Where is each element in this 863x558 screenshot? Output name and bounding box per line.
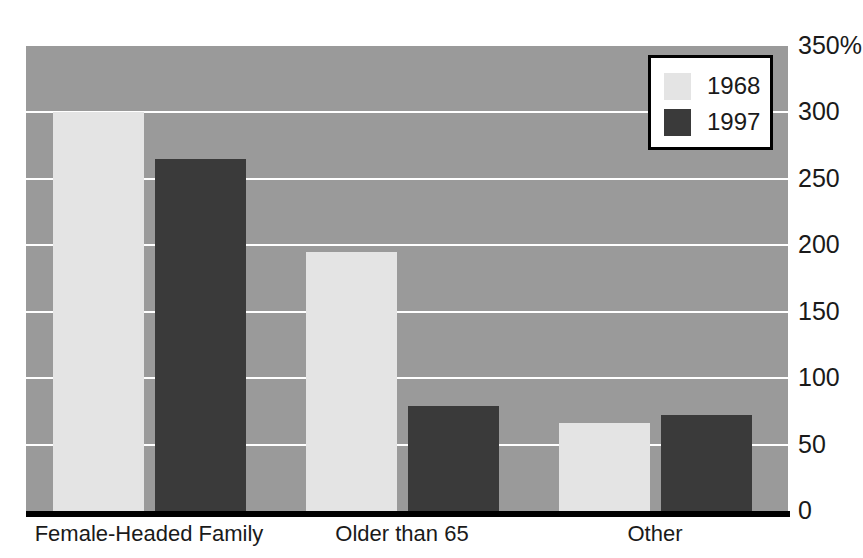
bar-1997-older-than-65 [408, 406, 499, 511]
y-tick-150: 150 [798, 299, 840, 324]
x-label-other: Other [455, 523, 855, 545]
legend-swatch-1968 [664, 73, 691, 100]
bar-1968-older-than-65 [306, 252, 397, 511]
y-tick-250: 250 [798, 166, 840, 191]
chart-legend: 1968 1997 [648, 55, 773, 150]
legend-entry-1997: 1997 [651, 104, 770, 140]
y-tick-0: 0 [798, 498, 812, 523]
bar-1997-female-headed-family [155, 159, 246, 511]
y-tick-350: 350% [798, 33, 862, 58]
y-tick-200: 200 [798, 232, 840, 257]
bar-1997-other [661, 415, 752, 511]
bar-1968-female-headed-family [53, 112, 144, 511]
legend-label-1968: 1968 [707, 74, 760, 98]
y-tick-100: 100 [798, 365, 840, 390]
legend-label-1997: 1997 [707, 110, 760, 134]
legend-swatch-1997 [664, 109, 691, 136]
y-tick-300: 300 [798, 99, 840, 124]
legend-entry-1968: 1968 [651, 68, 770, 104]
bar-chart: 050100150200250300350% Female-Headed Fam… [0, 0, 863, 558]
y-tick-50: 50 [798, 432, 826, 457]
bar-1968-other [559, 423, 650, 511]
x-axis-baseline [26, 511, 790, 517]
